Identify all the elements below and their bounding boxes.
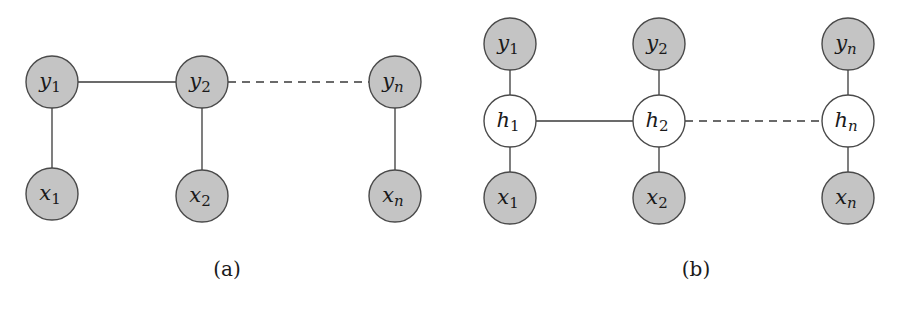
panel-b-caption: (b) <box>682 257 710 281</box>
node-y2: y2 <box>633 18 685 70</box>
node-y2: y2 <box>176 56 228 108</box>
node-y1: y1 <box>26 56 78 108</box>
panel-a-nodes: y1y2ynx1x2xn <box>26 56 421 222</box>
node-h1: h1 <box>484 95 536 147</box>
node-yn: yn <box>822 18 874 70</box>
node-xn: xn <box>369 170 421 222</box>
node-x2: x2 <box>176 170 228 222</box>
node-h2: h2 <box>633 95 685 147</box>
node-xn: xn <box>822 172 874 224</box>
node-x1: x1 <box>484 172 536 224</box>
node-yn: yn <box>369 56 421 108</box>
node-y1: y1 <box>484 18 536 70</box>
node-x1: x1 <box>26 168 78 220</box>
node-x2: x2 <box>633 172 685 224</box>
panel-a: y1y2ynx1x2xn (a) <box>26 56 421 281</box>
panel-a-caption: (a) <box>213 257 241 281</box>
node-hn: hn <box>822 95 874 147</box>
graphical-model-diagram: y1y2ynx1x2xn (a) y1y2ynh1h2hnx1x2xn (b) <box>0 0 897 309</box>
panel-b: y1y2ynh1h2hnx1x2xn (b) <box>484 18 874 281</box>
